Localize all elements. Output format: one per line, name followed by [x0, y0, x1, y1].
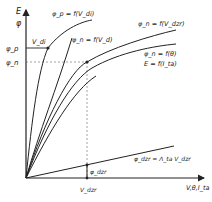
label-curve-phi-n-theta: φ_n = f(θ) [144, 50, 177, 58]
label-curve-phi-dzr-lin: φ_dzr = Λ_ta V_dzr [134, 155, 191, 163]
tick-phi-p: φ_p [6, 45, 19, 53]
tick-vdzr: V_dzr [80, 186, 97, 194]
vdzr-point [85, 60, 88, 63]
tick-phi-n: φ_n [6, 59, 19, 67]
diagram-canvas: E φ V,θ,I_ta φ_p φ_n V_dzr V_di φ_dzr φ_… [0, 0, 212, 202]
y-axis-label-e: E [16, 7, 22, 16]
label-curve-phi-p-vd: φ_p = f(V_di) [52, 10, 94, 18]
label-curve-phi-n-vd: φ_n = f(V_d) [72, 36, 112, 44]
vd-point [46, 46, 49, 49]
label-curve-e-ita: E = f(I_ta) [144, 60, 177, 68]
y-axis-label-phi: φ [16, 19, 22, 28]
label-curve-phi-n-vdzr: φ_n = f(V_dzr) [138, 20, 185, 28]
x-axis-label: V,θ,I_ta [186, 184, 210, 192]
label-phi-dzr: φ_dzr [90, 168, 107, 176]
label-vd: V_di [32, 38, 46, 46]
